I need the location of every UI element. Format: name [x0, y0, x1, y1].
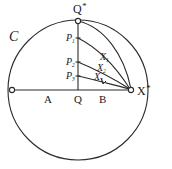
node-right-xstar	[128, 87, 133, 92]
label-x1-sub: 1	[106, 57, 109, 63]
label-x3-sub: 3	[100, 77, 103, 83]
label-x-star: X*	[137, 84, 150, 97]
label-q-star-base: Q	[73, 2, 82, 16]
label-x-star-sup: *	[146, 83, 150, 93]
label-p3-sub: 3	[72, 76, 75, 82]
label-x2-sub: 2	[103, 68, 106, 74]
label-x-star-base: X	[137, 84, 146, 98]
label-p1: P1	[66, 33, 75, 44]
label-a: A	[44, 94, 52, 105]
node-left	[9, 87, 14, 92]
label-b: B	[99, 94, 106, 105]
label-q-star-sup: *	[82, 1, 86, 11]
label-q: Q	[74, 94, 82, 105]
curve-name-label: C	[9, 30, 18, 44]
label-p2: P2	[66, 57, 75, 68]
label-q-star: Q*	[73, 2, 86, 15]
label-p1-sub: 1	[72, 38, 75, 44]
label-p2-sub: 2	[72, 62, 75, 68]
label-x3: X3	[94, 72, 103, 83]
geometry-figure: C Q* X* P1 P2 P3 A Q B X1 X2 X3	[0, 0, 172, 169]
label-p3: P3	[66, 71, 75, 82]
node-top-qstar	[75, 18, 80, 23]
